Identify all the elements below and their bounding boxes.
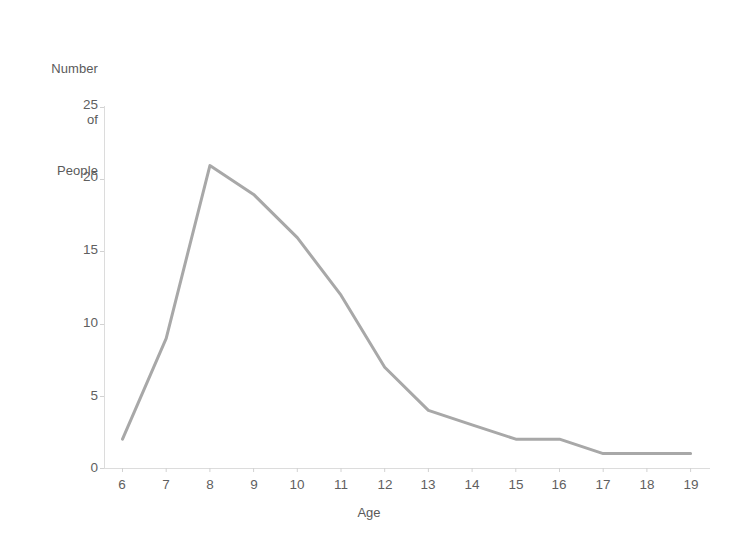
x-axis-tick-labels: 6 7 8 9 10 11 12 13 14 15 16 17 18 19 bbox=[0, 478, 738, 498]
data-line-number-of-people bbox=[123, 166, 691, 454]
x-axis-title: Age bbox=[0, 505, 738, 520]
x-tick-label: 6 bbox=[102, 478, 142, 492]
x-tick-label: 8 bbox=[190, 478, 230, 492]
y-axis-ticks bbox=[100, 108, 104, 469]
x-tick-label: 10 bbox=[277, 478, 317, 492]
plot-area bbox=[0, 0, 738, 550]
line-chart: Number of People 25 20 15 10 5 0 bbox=[0, 0, 738, 550]
x-tick-label: 11 bbox=[321, 478, 361, 492]
x-tick-label: 19 bbox=[671, 478, 711, 492]
x-tick-label: 13 bbox=[408, 478, 448, 492]
x-tick-label: 7 bbox=[146, 478, 186, 492]
x-tick-label: 9 bbox=[234, 478, 274, 492]
x-tick-label: 14 bbox=[452, 478, 492, 492]
x-tick-label: 17 bbox=[583, 478, 623, 492]
x-tick-label: 12 bbox=[365, 478, 405, 492]
x-tick-label: 16 bbox=[539, 478, 579, 492]
x-tick-label: 15 bbox=[496, 478, 536, 492]
x-tick-label: 18 bbox=[627, 478, 667, 492]
